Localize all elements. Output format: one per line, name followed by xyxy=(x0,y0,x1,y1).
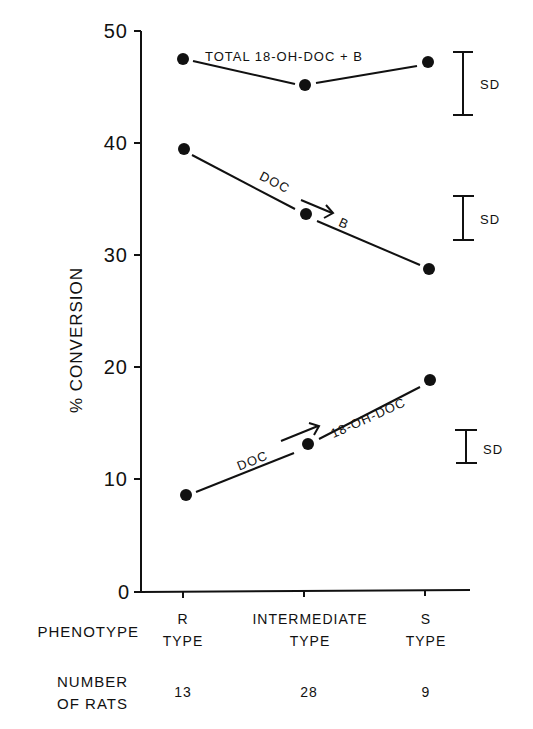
sd-bar-doc-to-18oh xyxy=(455,430,477,463)
data-point xyxy=(422,56,434,68)
y-tick-label-30: 30 xyxy=(104,244,128,266)
rats-count-s: 9 xyxy=(422,684,431,700)
doc-to-18oh-to: 18-OH-DOC xyxy=(328,395,408,441)
category-intermediate-line1: INTERMEDIATE xyxy=(252,611,367,627)
series-doc-to-18oh xyxy=(180,374,436,501)
series-doc-to-b xyxy=(178,143,435,275)
y-ticks xyxy=(134,31,141,592)
x-axis-label: PHENOTYPE xyxy=(37,623,139,640)
line-chart: 50 40 30 20 10 0 % CONVERSION TOTAL 18-O… xyxy=(0,0,533,729)
data-point xyxy=(423,263,435,275)
rats-label-line2: OF RATS xyxy=(57,695,128,712)
y-tick-label-0: 0 xyxy=(118,581,130,603)
sd-label-total: SD xyxy=(480,77,500,92)
arrow-icon xyxy=(281,423,319,441)
y-tick-label-50: 50 xyxy=(104,20,128,42)
sd-bar-total xyxy=(453,52,473,115)
category-s-line1: S xyxy=(421,611,431,627)
category-r-line1: R xyxy=(177,611,188,627)
sd-label-doc-to-b: SD xyxy=(480,212,500,227)
data-point xyxy=(178,143,190,155)
y-tick-label-40: 40 xyxy=(104,132,128,154)
y-axis-label: % CONVERSION xyxy=(67,267,86,413)
data-point xyxy=(299,79,311,91)
rats-count-r: 13 xyxy=(174,684,192,700)
category-s-line2: TYPE xyxy=(406,633,447,649)
data-point xyxy=(302,438,314,450)
rats-label-line1: NUMBER xyxy=(57,673,128,690)
category-intermediate-line2: TYPE xyxy=(290,633,331,649)
data-point xyxy=(300,208,312,220)
data-point xyxy=(424,374,436,386)
y-tick-label-10: 10 xyxy=(104,468,128,490)
rats-count-intermediate: 28 xyxy=(300,684,318,700)
data-point xyxy=(177,53,189,65)
data-point xyxy=(180,489,192,501)
total-series-label: TOTAL 18-OH-DOC + B xyxy=(205,49,363,64)
category-r-line2: TYPE xyxy=(163,633,204,649)
sd-label-doc-to-18oh: SD xyxy=(483,442,503,457)
sd-bar-doc-to-b xyxy=(453,196,474,240)
y-tick-label-20: 20 xyxy=(104,356,128,378)
